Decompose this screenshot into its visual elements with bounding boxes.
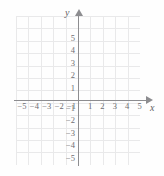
- x-tick-label--3: −3: [41, 102, 53, 111]
- x-tick-label--4: −4: [28, 102, 40, 111]
- y-tick-label-1: 1: [63, 84, 75, 93]
- y-tick-label--5: −5: [63, 154, 75, 163]
- coordinate-plane: x y −5 −4 −3 −2 −1 1 2 3 4 5 5 4 3 2 1 −…: [0, 0, 164, 176]
- y-tick-label-5: 5: [63, 34, 75, 43]
- y-tick-label--2: −2: [63, 116, 75, 125]
- y-axis-line: [78, 14, 79, 166]
- x-axis-label: x: [150, 103, 154, 113]
- y-tick-label-4: 4: [63, 46, 75, 55]
- x-tick-label-1: 1: [84, 102, 96, 111]
- y-axis-label: y: [65, 8, 69, 18]
- y-axis-arrow-icon: [75, 9, 83, 16]
- x-tick-label-4: 4: [121, 102, 133, 111]
- y-tick-label--3: −3: [63, 129, 75, 138]
- x-tick-label-5: 5: [134, 102, 146, 111]
- y-tick-label-3: 3: [63, 59, 75, 68]
- y-tick-label--4: −4: [63, 141, 75, 150]
- y-tick-label--1: −1: [63, 104, 75, 113]
- x-tick-label-2: 2: [96, 102, 108, 111]
- x-tick-label-3: 3: [109, 102, 121, 111]
- y-tick-label-2: 2: [63, 71, 75, 80]
- x-tick-label--5: −5: [16, 102, 28, 111]
